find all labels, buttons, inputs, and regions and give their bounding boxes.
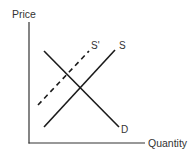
supply-demand-diagram: Price Quantity D S S' xyxy=(0,0,196,155)
shifted-supply-curve-label: S' xyxy=(91,40,100,51)
supply-curve-label: S xyxy=(119,40,126,51)
y-axis-label: Price xyxy=(12,8,36,20)
x-axis-label: Quantity xyxy=(148,137,188,149)
shifted-supply-curve xyxy=(38,51,89,105)
demand-curve-label: D xyxy=(121,124,128,135)
